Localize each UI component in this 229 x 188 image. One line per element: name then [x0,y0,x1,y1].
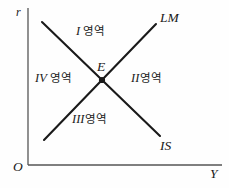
origin-label: O [13,160,23,174]
equilibrium-point-marker [99,77,105,83]
region-4-numeral: IV [35,71,47,85]
is-lm-diagram: r Y O LM IS E I영역 II영역 III영역 IV영역 [0,0,229,188]
region-1-numeral: I [76,24,80,38]
r-axis-label: r [16,6,21,18]
region-3-name: 영역 [85,112,107,126]
region-2-numeral: II [131,71,139,85]
region-3-numeral: III [72,112,85,126]
region-label-2: II영역 [131,72,162,85]
equilibrium-point-label: E [97,60,105,74]
region-1-name: 영역 [83,24,105,38]
y-axis-label: Y [210,167,218,181]
region-label-3: III영역 [72,113,107,126]
is-curve-label: IS [160,139,171,153]
diagram-canvas [0,0,229,188]
lm-curve-label: LM [160,11,179,25]
region-label-1: I영역 [76,25,105,38]
region-2-name: 영역 [140,71,162,85]
region-label-4: IV영역 [35,72,72,85]
region-4-name: 영역 [50,71,72,85]
